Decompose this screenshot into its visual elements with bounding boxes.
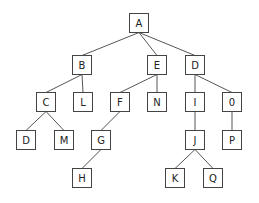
tree-node-d1: D bbox=[186, 56, 205, 75]
tree-node-m: M bbox=[55, 131, 74, 150]
node-label: F bbox=[117, 97, 123, 108]
edge-j-q bbox=[195, 150, 213, 169]
tree-node-n: N bbox=[148, 93, 167, 112]
tree-node-q: Q bbox=[204, 169, 223, 188]
tree-diagram: ABEDCLFNI0DMGJPHKQ bbox=[0, 0, 259, 203]
tree-node-p: P bbox=[223, 131, 242, 150]
tree-node-k: K bbox=[166, 169, 185, 188]
node-label: D bbox=[191, 60, 199, 71]
tree-node-b: B bbox=[73, 56, 92, 75]
edge-a-b bbox=[82, 33, 139, 56]
tree-node-e: E bbox=[148, 56, 167, 75]
edge-j-k bbox=[175, 150, 195, 169]
node-label: E bbox=[154, 60, 160, 71]
node-label: L bbox=[80, 97, 86, 108]
tree-node-f: F bbox=[111, 93, 130, 112]
edge-b-c bbox=[46, 75, 82, 93]
node-label: G bbox=[97, 135, 105, 146]
tree-node-i: I bbox=[186, 93, 205, 112]
tree-node-o: 0 bbox=[223, 93, 242, 112]
edge-e-f bbox=[120, 75, 157, 93]
edge-b-l bbox=[82, 75, 83, 93]
node-label: I bbox=[194, 97, 197, 108]
node-label: K bbox=[172, 173, 179, 184]
tree-node-h: H bbox=[73, 169, 92, 188]
node-label: D bbox=[22, 135, 30, 146]
node-label: Q bbox=[209, 173, 217, 184]
node-label: J bbox=[193, 135, 197, 146]
node-label: P bbox=[229, 135, 235, 146]
edge-c-m bbox=[46, 112, 64, 131]
node-label: 0 bbox=[229, 97, 235, 108]
node-label: H bbox=[78, 173, 86, 184]
node-label: N bbox=[153, 97, 160, 108]
tree-node-a: A bbox=[130, 14, 149, 33]
edge-c-d2 bbox=[26, 112, 46, 131]
nodes-layer: ABEDCLFNI0DMGJPHKQ bbox=[17, 14, 242, 188]
tree-node-g: G bbox=[92, 131, 111, 150]
tree-node-c: C bbox=[37, 93, 56, 112]
edge-d1-o bbox=[195, 75, 232, 93]
tree-node-j: J bbox=[186, 131, 205, 150]
node-label: C bbox=[43, 97, 50, 108]
edge-f-g bbox=[101, 112, 120, 131]
node-label: M bbox=[60, 135, 69, 146]
edge-g-h bbox=[82, 150, 101, 169]
tree-node-l: L bbox=[74, 93, 93, 112]
tree-node-d2: D bbox=[17, 131, 36, 150]
node-label: B bbox=[79, 60, 86, 71]
node-label: A bbox=[136, 18, 143, 29]
